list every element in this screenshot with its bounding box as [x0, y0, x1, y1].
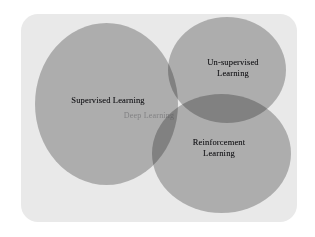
venn-diagram-figure: Supervised Learning Un-supervised Learni…: [0, 0, 315, 237]
label-deep-learning: Deep Learning: [108, 111, 190, 121]
label-unsupervised-learning: Un-supervised Learning: [184, 57, 282, 78]
label-supervised-learning: Supervised Learning: [46, 95, 170, 106]
label-reinforcement-learning: Reinforcement Learning: [167, 137, 271, 158]
